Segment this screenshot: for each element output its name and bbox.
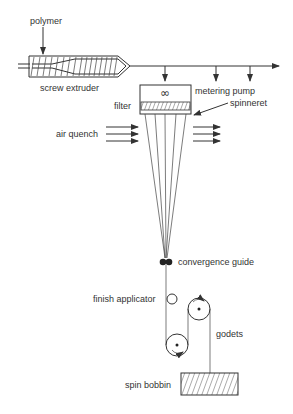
screw-extruder-label: screw extruder — [40, 83, 99, 93]
filter-label: filter — [114, 101, 131, 111]
spin-pack: ∞ metering pump filter spinneret — [114, 85, 268, 115]
filter-icon — [141, 102, 190, 110]
screw-extruder: screw extruder — [18, 56, 130, 93]
air-quench: air quench — [56, 127, 220, 141]
spinneret-leader-icon — [194, 103, 228, 115]
metering-pump-label: metering pump — [195, 86, 255, 96]
godet-lower — [166, 334, 188, 356]
spin-bobbin-icon — [181, 373, 238, 395]
spin-bobbin-label: spin bobbin — [125, 380, 171, 390]
polymer-feed: polymer — [30, 16, 62, 54]
metering-pump-icon: ∞ — [160, 86, 170, 100]
convergence-guide: convergence guide — [160, 257, 254, 267]
finish-applicator-label: finish applicator — [93, 294, 156, 304]
godets-label: godets — [216, 329, 244, 339]
filaments — [145, 114, 186, 258]
melt-spinning-diagram: polymer screw extruder — [0, 0, 293, 414]
godet-upper — [188, 298, 210, 320]
convergence-guide-label: convergence guide — [178, 257, 254, 267]
air-quench-label: air quench — [56, 129, 98, 139]
screw-flights-icon — [31, 57, 117, 76]
polymer-label: polymer — [30, 16, 62, 26]
spinneret-label: spinneret — [230, 98, 268, 108]
finish-applicator-icon — [167, 294, 177, 304]
